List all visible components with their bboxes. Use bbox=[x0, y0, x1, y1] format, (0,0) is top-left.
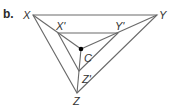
label-x-prime: X' bbox=[55, 20, 66, 32]
label-x: X bbox=[22, 9, 31, 21]
label-y-prime: Y' bbox=[115, 20, 125, 32]
triangle-xyz bbox=[33, 15, 157, 93]
label-c: C bbox=[84, 52, 92, 64]
label-z-prime: Z' bbox=[81, 73, 92, 85]
ray-c-z bbox=[77, 49, 81, 93]
label-y: Y bbox=[159, 9, 167, 21]
center-point-c bbox=[79, 47, 84, 52]
dilation-diagram: X Y Z X' Y' Z' C bbox=[0, 0, 169, 106]
label-z: Z bbox=[72, 95, 81, 106]
